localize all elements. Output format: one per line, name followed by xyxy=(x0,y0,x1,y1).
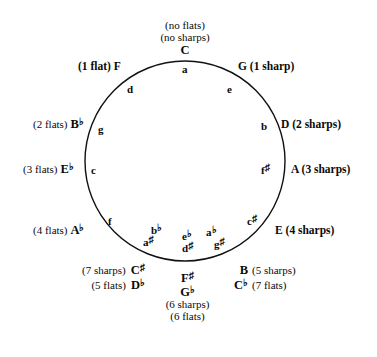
fsharp-major-note: F♯ xyxy=(140,272,235,286)
circle-of-fifths-diagram: (no flats) (no sharps) C a G (1 sharp) e… xyxy=(0,0,377,357)
key-label-csharp-dflat-major: (7 sharps) C♯ (5 flats) D♭ xyxy=(50,263,145,293)
dflat-major-row: (5 flats) D♭ xyxy=(50,278,145,293)
sharp-icon: ♯ xyxy=(149,234,154,245)
cb-major-flats-label: (7 flats) xyxy=(252,279,287,291)
dflat-major-note: D♭ xyxy=(131,278,145,293)
flat-icon: ♭ xyxy=(190,284,195,295)
bflat-flats-label: (2 flats) xyxy=(33,118,68,130)
sharp-icon: ♯ xyxy=(265,162,270,173)
key-label-f-major: (1 flat) F xyxy=(78,60,121,72)
minor-dsharp-label: d♯ xyxy=(182,242,193,254)
sharp-icon: ♯ xyxy=(140,262,145,273)
aflat-flats-label: (4 flats) xyxy=(33,224,68,236)
eflat-major-note: E♭ xyxy=(60,162,73,176)
c-no-sharps-label: (no sharps) xyxy=(135,32,235,44)
flat-icon: ♭ xyxy=(212,224,217,235)
bflat-major-note: B♭ xyxy=(70,117,83,131)
flat-icon: ♭ xyxy=(79,222,84,233)
key-label-g-major: G (1 sharp) xyxy=(238,60,294,72)
sharp-icon: ♯ xyxy=(220,236,225,247)
key-label-aflat-major: (4 flats) A♭ xyxy=(33,224,84,238)
key-label-fsharp-gflat-major: F♯ G♭ (6 sharps) (6 flats) xyxy=(140,272,235,323)
dflat-flats-label: (5 flats) xyxy=(91,279,126,291)
minor-label-b: b xyxy=(261,121,267,133)
b-major-sharps-label: (5 sharps) xyxy=(252,264,296,276)
minor-gsharp-label: g♯ xyxy=(214,238,225,250)
minor-label-c-sharp: c♯ xyxy=(247,216,257,228)
flat-icon: ♭ xyxy=(187,228,192,239)
c-major-note: C xyxy=(135,44,235,58)
minor-asharp-label: a♯ xyxy=(143,236,154,248)
minor-label-d: d xyxy=(127,84,133,96)
key-label-a-major: A (3 sharps) xyxy=(291,163,350,175)
minor-pair-bflat-asharp: b♭ a♯ xyxy=(143,224,177,250)
minor-label-g: g xyxy=(98,124,104,136)
minor-aflat-label: a♭ xyxy=(206,226,217,238)
flat-icon: ♭ xyxy=(140,277,145,288)
minor-label-f: f xyxy=(108,216,112,228)
csharp-major-row: (7 sharps) C♯ xyxy=(50,263,145,278)
flat-icon: ♭ xyxy=(157,222,162,233)
flat-icon: ♭ xyxy=(69,161,74,172)
sharp-icon: ♯ xyxy=(188,240,193,251)
key-label-bflat-major: (2 flats) B♭ xyxy=(33,118,84,132)
minor-label-f-sharp: f♯ xyxy=(261,165,270,177)
csharp-major-note: C♯ xyxy=(131,263,145,278)
gflat-flats-label: (6 flats) xyxy=(140,311,235,323)
minor-label-c: c xyxy=(91,165,96,177)
minor-label-a: a xyxy=(182,64,188,76)
minor-pair-aflat-gsharp: a♭ g♯ xyxy=(206,226,240,252)
key-label-eflat-major: (3 flats) E♭ xyxy=(23,163,74,177)
sharp-icon: ♯ xyxy=(189,270,194,281)
aflat-major-note: A♭ xyxy=(70,223,84,237)
flat-icon: ♭ xyxy=(79,116,84,127)
csharp-sharps-label: (7 sharps) xyxy=(82,264,126,276)
key-label-e-major: E (4 sharps) xyxy=(275,224,334,236)
minor-label-e: e xyxy=(227,84,232,96)
eflat-flats-label: (3 flats) xyxy=(23,163,58,175)
sharp-icon: ♯ xyxy=(252,213,257,224)
key-label-d-major: D (2 sharps) xyxy=(281,118,341,130)
key-label-c-major: (no flats) (no sharps) C xyxy=(135,20,235,57)
flat-icon: ♭ xyxy=(243,277,248,288)
gflat-major-note: G♭ xyxy=(140,286,235,300)
